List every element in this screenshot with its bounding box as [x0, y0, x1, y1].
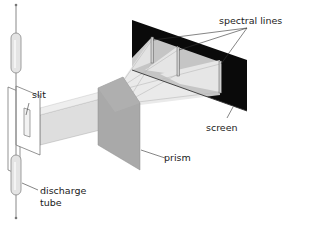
leader-spectral-line-2 [179, 28, 247, 50]
leader-prism [141, 150, 165, 158]
leader-screen [227, 107, 233, 118]
spectral-line-3 [219, 61, 222, 93]
label-prism: prism [164, 152, 191, 163]
spectral-line-2 [177, 47, 180, 76]
label-slit: slit [32, 89, 46, 100]
leader-discharge-tube [22, 183, 38, 190]
label-discharge-tube-line2: tube [40, 197, 62, 208]
label-discharge-tube-line1: discharge [40, 185, 86, 196]
spectral-line-1 [151, 37, 154, 63]
slit [24, 108, 30, 137]
label-spectral-lines: spectral lines [219, 15, 282, 26]
label-screen: screen [206, 122, 238, 133]
